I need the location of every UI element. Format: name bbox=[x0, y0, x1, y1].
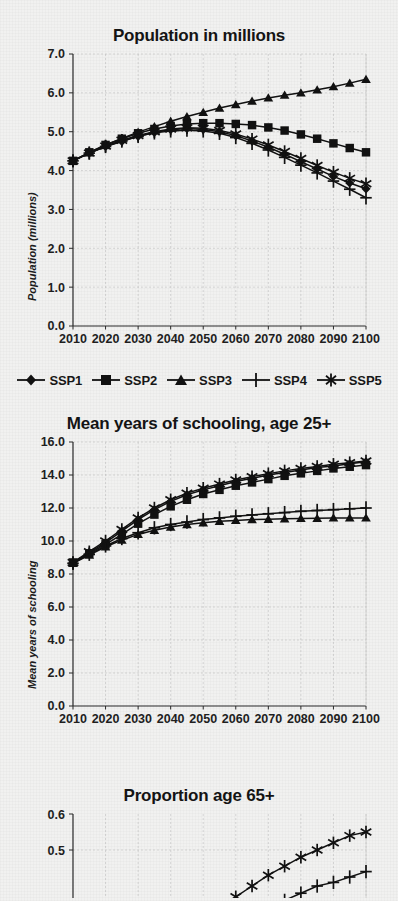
x-tick-label: 2010 bbox=[59, 712, 87, 726]
y-tick-label: 2.0 bbox=[48, 666, 65, 680]
legend-item-ssp5[interactable]: SSP5 bbox=[316, 372, 382, 388]
x-tick-label: 2060 bbox=[222, 332, 250, 346]
x-tick-label: 2060 bbox=[222, 712, 250, 726]
y-tick-label: 16.0 bbox=[41, 435, 65, 449]
y-axis-label-population: Population (millions) bbox=[26, 192, 38, 301]
x-tick-label: 2030 bbox=[124, 332, 152, 346]
y-tick-label: 6.0 bbox=[48, 600, 65, 614]
x-tick-label: 2050 bbox=[189, 712, 217, 726]
x-tick-label: 2050 bbox=[189, 332, 217, 346]
y-tick-label: 10.0 bbox=[41, 534, 65, 548]
legend-item-ssp3[interactable]: SSP3 bbox=[166, 372, 232, 388]
x-tick-label: 2020 bbox=[92, 712, 120, 726]
triangle-icon bbox=[166, 372, 196, 388]
y-tick-label: 4.0 bbox=[48, 633, 65, 647]
y-tick-label: 14.0 bbox=[41, 468, 65, 482]
y-tick-label: 6.0 bbox=[48, 86, 65, 100]
legend-label-ssp3: SSP3 bbox=[199, 373, 232, 388]
plus-icon bbox=[241, 372, 271, 388]
diamond-icon bbox=[16, 372, 46, 388]
x-tick-label: 2080 bbox=[287, 332, 315, 346]
legend-item-ssp1[interactable]: SSP1 bbox=[16, 372, 82, 388]
y-tick-label: 0.5 bbox=[48, 844, 65, 858]
y-tick-label: 2.0 bbox=[48, 242, 65, 256]
legend-item-ssp2[interactable]: SSP2 bbox=[91, 372, 157, 388]
x-tick-label: 2080 bbox=[287, 712, 315, 726]
y-tick-label: 5.0 bbox=[48, 125, 65, 139]
x-tick-label: 2070 bbox=[254, 332, 282, 346]
x-tick-label: 2090 bbox=[320, 712, 348, 726]
y-axis-label-schooling: Mean years of schooling bbox=[26, 561, 38, 689]
x-tick-label: 2090 bbox=[320, 332, 348, 346]
square-icon bbox=[91, 372, 121, 388]
chart-panel-population: Population in millions Population (milli… bbox=[0, 26, 398, 356]
y-tick-label: 0.6 bbox=[48, 808, 65, 822]
proportion65-plot-svg: 0.60.5 bbox=[0, 806, 398, 898]
plot-area-schooling: Mean years of schooling 0.02.04.06.08.01… bbox=[0, 434, 398, 734]
y-tick-label: 3.0 bbox=[48, 203, 65, 217]
chart-panel-proportion65: Proportion age 65+ 0.60.5 bbox=[0, 786, 398, 898]
chart-panel-schooling: Mean years of schooling, age 25+ Mean ye… bbox=[0, 414, 398, 734]
x-tick-label: 2020 bbox=[92, 332, 120, 346]
y-tick-label: 12.0 bbox=[41, 501, 65, 515]
legend-label-ssp5: SSP5 bbox=[349, 373, 382, 388]
legend-label-ssp4: SSP4 bbox=[274, 373, 307, 388]
legend-label-ssp2: SSP2 bbox=[124, 373, 157, 388]
chart-title-proportion65: Proportion age 65+ bbox=[0, 786, 398, 806]
legend-item-ssp4[interactable]: SSP4 bbox=[241, 372, 307, 388]
x-tick-label: 2030 bbox=[124, 712, 152, 726]
y-tick-label: 4.0 bbox=[48, 164, 65, 178]
y-tick-label: 8.0 bbox=[48, 567, 65, 581]
y-tick-label: 7.0 bbox=[48, 47, 65, 61]
asterisk-icon bbox=[316, 372, 346, 388]
x-tick-label: 2040 bbox=[157, 332, 185, 346]
legend: SSP1 SSP2 SSP3 SSP4 SSP5 bbox=[0, 369, 398, 391]
population-plot-svg: 0.01.02.03.04.05.06.07.02010202020302040… bbox=[0, 46, 398, 356]
x-tick-label: 2100 bbox=[352, 332, 380, 346]
x-tick-label: 2040 bbox=[157, 712, 185, 726]
chart-title-schooling: Mean years of schooling, age 25+ bbox=[0, 414, 398, 434]
y-tick-label: 1.0 bbox=[48, 281, 65, 295]
chart-title-population: Population in millions bbox=[0, 26, 398, 46]
x-tick-label: 2010 bbox=[59, 332, 87, 346]
x-tick-label: 2070 bbox=[254, 712, 282, 726]
series-ssp5 bbox=[182, 826, 372, 898]
legend-label-ssp1: SSP1 bbox=[49, 373, 82, 388]
plot-area-proportion65: 0.60.5 bbox=[0, 806, 398, 898]
schooling-plot-svg: 0.02.04.06.08.010.012.014.016.0201020202… bbox=[0, 434, 398, 734]
x-tick-label: 2100 bbox=[352, 712, 380, 726]
plot-area-population: Population (millions) 0.01.02.03.04.05.0… bbox=[0, 46, 398, 356]
